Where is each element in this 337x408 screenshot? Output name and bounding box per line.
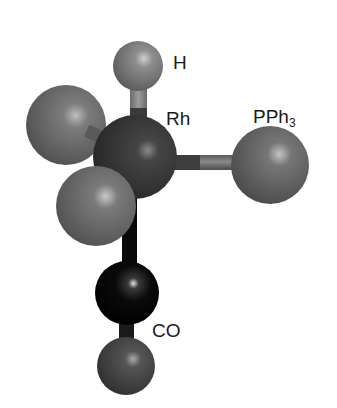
label-pph3: PPh3 [253,107,296,129]
label-rh-text: Rh [166,108,190,129]
atom-ligand-lower-left [56,166,136,246]
label-h-text: H [173,52,187,73]
atom-c [95,261,159,325]
label-co: CO [152,321,181,340]
label-pph3-main: PPh [253,106,289,127]
molecule-diagram [0,0,337,408]
label-pph3-subscript: 3 [289,116,296,130]
label-h: H [173,53,187,72]
atom-pph3 [231,126,309,204]
label-rh: Rh [166,109,190,128]
atom-o [97,337,155,395]
atom-h [113,41,163,91]
bond-rh-pph3 [170,155,236,170]
label-co-text: CO [152,320,181,341]
